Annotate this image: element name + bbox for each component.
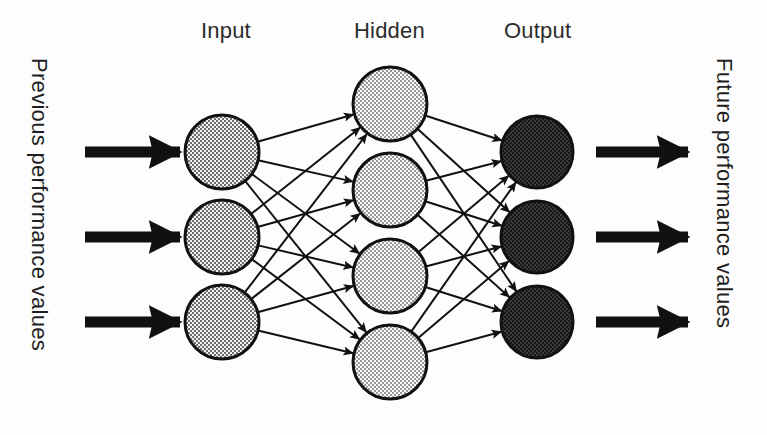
connection-h2-to-o1 [426, 161, 501, 180]
layer-label-output: Output [504, 18, 571, 44]
connection-h4-to-o1 [411, 182, 516, 331]
right-axis-label-future-performance-values: Future performance values [711, 58, 737, 328]
output-node-3 [501, 286, 573, 358]
input-node-3 [185, 285, 259, 359]
connection-h4-to-o3 [426, 332, 502, 353]
hidden-node-4 [353, 325, 427, 399]
layer-label-hidden: Hidden [354, 18, 425, 44]
hidden-node-3 [353, 239, 427, 313]
output-layer-nodes [501, 116, 573, 358]
layer-label-input: Input [201, 18, 251, 44]
hidden-node-1 [353, 67, 427, 141]
diagram-canvas: Input Hidden Output Previous performance… [0, 0, 767, 435]
hidden-node-2 [353, 153, 427, 227]
neural-network-svg [0, 0, 767, 435]
input-to-hidden-connections [245, 114, 367, 353]
input-layer-nodes [185, 115, 259, 359]
connection-h3-to-o1 [418, 176, 508, 252]
output-node-1 [501, 116, 573, 188]
connection-i1-to-h1 [258, 114, 354, 141]
connection-h1-to-o1 [425, 115, 502, 140]
input-node-2 [185, 200, 259, 274]
output-feed-arrows [596, 152, 688, 322]
left-axis-label-previous-performance-values: Previous performance values [26, 58, 52, 351]
input-node-1 [185, 115, 259, 189]
connection-i3-to-h2 [251, 213, 360, 299]
connection-h4-to-o2 [418, 261, 509, 338]
connection-i2-to-h1 [251, 128, 360, 214]
hidden-layer-nodes [353, 67, 427, 399]
connection-i3-to-h1 [245, 134, 367, 293]
output-node-2 [501, 201, 573, 273]
connection-i3-to-h4 [258, 331, 353, 354]
input-feed-arrows [85, 152, 180, 322]
